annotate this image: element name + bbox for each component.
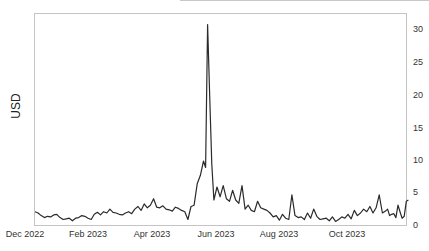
y-tick-label: 10 (413, 155, 429, 165)
y-tick-label: 25 (413, 57, 429, 67)
line-chart (0, 0, 429, 251)
y-tick-label: 5 (413, 187, 429, 197)
x-tick-label: Dec 2022 (6, 229, 45, 239)
x-tick-label: Feb 2023 (69, 229, 107, 239)
y-tick-label: 30 (413, 24, 429, 34)
x-tick-label: Apr 2023 (134, 229, 171, 239)
x-tick-label: Oct 2023 (329, 229, 366, 239)
x-tick-label: Aug 2023 (260, 229, 299, 239)
usd-series-line (35, 25, 408, 222)
x-tick-label: Jun 2023 (197, 229, 234, 239)
y-axis-label: USD (9, 88, 23, 124)
y-tick-label: 15 (413, 123, 429, 133)
y-tick-label: 20 (413, 90, 429, 100)
y-tick-label: 0 (413, 220, 429, 230)
